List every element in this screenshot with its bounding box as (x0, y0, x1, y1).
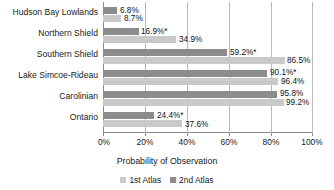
x-tick-label: 40% (179, 138, 196, 147)
bar-value-label: 34.9% (179, 36, 202, 44)
bar-chart: Hudson Bay Lowlands Northern Shield Sout… (0, 0, 334, 190)
bar-value-label: 99.2% (286, 99, 309, 107)
category-label: Southern Shield (37, 50, 98, 59)
x-tick-label: 0% (98, 138, 110, 147)
bar-1st-atlas (103, 99, 284, 106)
bar-1st-atlas (103, 15, 121, 22)
bar-2nd-atlas (103, 91, 277, 98)
category-label: Northern Shield (38, 29, 98, 38)
bar-value-label: 86.5% (287, 57, 310, 65)
bar-2nd-atlas (103, 70, 267, 77)
legend-swatch-icon (120, 177, 126, 183)
bar-group: 24.4%* 37.6% (103, 112, 313, 133)
legend-label: 1st Atlas (129, 175, 161, 185)
x-tick-label: 60% (221, 138, 238, 147)
bar-group: 6.8% 8.7% (103, 7, 313, 28)
bar-group: 16.9%* 34.9% (103, 28, 313, 49)
bar-value-label: 24.4%* (157, 112, 183, 120)
legend-item-2nd-atlas[interactable]: 2nd Atlas (170, 175, 213, 185)
bar-group: 59.2%* 86.5% (103, 49, 313, 70)
bar-2nd-atlas (103, 49, 227, 56)
x-tick-label: 100% (301, 138, 322, 147)
tick-mark (103, 133, 104, 136)
category-label: Carolinian (59, 92, 98, 101)
plot-area: 6.8% 8.7% 16.9%* 34.9% 59.2%* 86.5% (103, 2, 313, 133)
plot-region: Hudson Bay Lowlands Northern Shield Sout… (0, 0, 334, 140)
legend-swatch-icon (170, 177, 176, 183)
bar-value-label: 96.4% (281, 78, 304, 86)
category-label: Lake Simcoe-Rideau (18, 71, 98, 80)
tick-mark (312, 133, 313, 136)
bar-1st-atlas (103, 120, 182, 127)
category-label: Hudson Bay Lowlands (12, 8, 98, 17)
bar-2nd-atlas (103, 28, 139, 35)
tick-mark (187, 133, 188, 136)
bar-1st-atlas (103, 36, 176, 43)
x-tick-label: 80% (263, 138, 280, 147)
bar-value-label: 95.8% (280, 90, 303, 98)
bar-group: 90.1%* 96.4% (103, 70, 313, 91)
bar-2nd-atlas (103, 7, 117, 14)
chart-legend: 1st Atlas 2nd Atlas (0, 175, 334, 185)
bar-value-label: 90.1%* (270, 69, 296, 77)
bar-1st-atlas (103, 78, 278, 85)
tick-mark (145, 133, 146, 136)
legend-item-1st-atlas[interactable]: 1st Atlas (120, 175, 161, 185)
bar-value-label: 16.9%* (141, 28, 167, 36)
bar-value-label: 8.7% (124, 15, 143, 23)
category-axis: Hudson Bay Lowlands Northern Shield Sout… (0, 0, 101, 133)
bar-group: 95.8% 99.2% (103, 91, 313, 112)
category-label: Ontario (70, 113, 98, 122)
bar-2nd-atlas (103, 112, 154, 119)
x-tick-label: 20% (137, 138, 154, 147)
bar-1st-atlas (103, 57, 285, 64)
tick-mark (271, 133, 272, 136)
bar-value-label: 59.2%* (230, 49, 256, 57)
legend-label: 2nd Atlas (179, 175, 213, 185)
x-axis-title: Probability of Observation (0, 156, 334, 166)
tick-mark (229, 133, 230, 136)
bar-value-label: 37.6% (185, 121, 208, 129)
